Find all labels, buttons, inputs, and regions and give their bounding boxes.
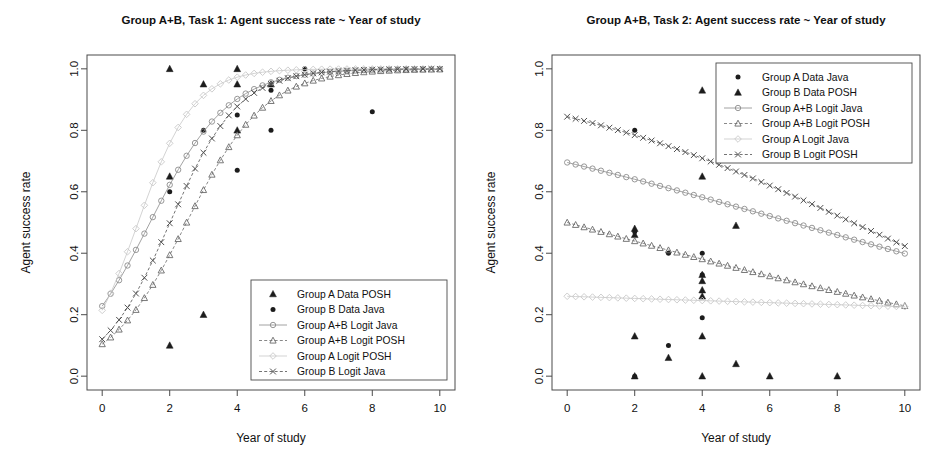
marker-x-cross	[581, 118, 587, 124]
marker-x-cross	[834, 213, 840, 219]
chart-title: Group A+B, Task 2: Agent success rate ~ …	[586, 14, 886, 26]
marker-x-cross	[826, 209, 832, 215]
marker-filled-triangle	[699, 287, 706, 293]
marker-x-cross	[843, 217, 849, 223]
x-tick-label: 10	[433, 402, 446, 414]
y-tick-label: 0.2	[68, 307, 80, 323]
x-axis-label: Year of study	[236, 431, 306, 445]
x-tick-label: 10	[898, 402, 911, 414]
marker-x-cross	[792, 194, 798, 200]
series-logit-posh-group-a-b	[564, 219, 908, 308]
x-tick-label: 8	[834, 402, 840, 414]
y-tick-label: 1.0	[68, 61, 80, 77]
legend-label: Group A+B Logit POSH	[297, 335, 405, 346]
y-axis-label: Agent success rate	[484, 171, 498, 273]
marker-filled-triangle	[733, 222, 740, 228]
marker-x-cross	[606, 125, 612, 131]
chart-panel-task-2: Group A+B, Task 2: Agent success rate ~ …	[465, 0, 929, 468]
chart-panel-task-1: Group A+B, Task 1: Agent success rate ~ …	[0, 0, 464, 468]
series-logit-posh-group-a	[99, 66, 443, 314]
marker-x-cross	[158, 239, 164, 245]
legend-label: Group B Data Java	[297, 304, 385, 315]
chart-title: Group A+B, Task 1: Agent success rate ~ …	[121, 14, 421, 26]
marker-x-cross	[649, 138, 655, 144]
marker-x-cross	[682, 149, 688, 155]
marker-filled-triangle	[699, 293, 706, 299]
figure-root: Group A+B, Task 1: Agent success rate ~ …	[0, 0, 929, 468]
marker-filled-triangle	[733, 360, 740, 366]
marker-filled-circle	[700, 315, 705, 320]
legend-label: Group B Logit Java	[297, 366, 385, 377]
marker-filled-circle	[167, 189, 172, 194]
marker-x-cross	[750, 176, 756, 182]
marker-x-cross	[902, 243, 908, 249]
y-tick-label: 0.0	[533, 368, 545, 384]
series-data-java-group-a	[632, 128, 738, 379]
x-tick-label: 2	[632, 402, 638, 414]
x-tick-label: 0	[99, 402, 105, 414]
x-tick-label: 4	[699, 402, 706, 414]
marker-x-cross	[217, 123, 223, 129]
y-tick-label: 0.6	[68, 184, 80, 200]
x-tick-label: 0	[564, 402, 570, 414]
marker-x-cross	[150, 258, 156, 264]
marker-x-cross	[860, 224, 866, 230]
legend-label: Group A+B Logit Java	[762, 103, 863, 114]
chart-svg: Group A+B, Task 1: Agent success rate ~ …	[0, 0, 464, 468]
marker-filled-circle	[666, 343, 671, 348]
y-tick-label: 0.4	[68, 245, 80, 262]
marker-filled-triangle	[631, 333, 638, 339]
marker-filled-triangle	[699, 373, 706, 379]
x-tick-label: 6	[767, 402, 773, 414]
marker-x-cross	[733, 169, 739, 175]
marker-x-cross	[851, 220, 857, 226]
marker-filled-triangle	[200, 81, 207, 87]
marker-x-cross	[133, 291, 139, 297]
marker-filled-circle	[370, 109, 375, 114]
marker-x-cross	[167, 220, 173, 226]
chart-svg: Group A+B, Task 2: Agent success rate ~ …	[465, 0, 929, 468]
legend-label: Group A+B Logit POSH	[762, 118, 870, 129]
marker-x-cross	[708, 159, 714, 165]
y-tick-label: 1.0	[533, 61, 545, 77]
marker-filled-triangle	[699, 277, 706, 283]
series-line	[102, 69, 440, 311]
marker-x-cross	[116, 317, 122, 323]
legend-label: Group A+B Logit Java	[297, 320, 398, 331]
marker-filled-triangle	[766, 373, 773, 379]
marker-x-cross	[201, 150, 207, 156]
marker-filled-triangle	[200, 311, 207, 317]
marker-filled-circle	[632, 128, 637, 133]
marker-filled-circle	[666, 251, 671, 256]
marker-x-cross	[758, 179, 764, 185]
marker-x-cross	[175, 201, 181, 207]
marker-filled-circle	[235, 112, 240, 117]
y-tick-label: 0.8	[533, 122, 545, 138]
marker-x-cross	[868, 228, 874, 234]
marker-open-triangle	[183, 219, 189, 225]
y-tick-label: 0.2	[533, 307, 545, 323]
marker-filled-circle	[736, 75, 741, 80]
chart-legend: Group A Data JavaGroup B Data POSHGroup …	[716, 63, 912, 163]
marker-x-cross	[657, 140, 663, 146]
y-tick-label: 0.4	[533, 245, 545, 262]
marker-filled-triangle	[631, 225, 638, 231]
marker-x-cross	[234, 104, 240, 110]
marker-x-cross	[632, 132, 638, 138]
x-axis: 0246810	[564, 390, 911, 414]
x-tick-label: 6	[302, 402, 308, 414]
legend-label: Group A Logit Java	[762, 134, 849, 145]
marker-filled-circle	[269, 128, 274, 133]
marker-filled-triangle	[166, 65, 173, 71]
marker-x-cross	[809, 201, 815, 207]
y-tick-label: 0.6	[533, 184, 545, 200]
x-axis-label: Year of study	[701, 431, 771, 445]
marker-x-cross	[885, 236, 891, 242]
marker-x-cross	[893, 239, 899, 245]
marker-x-cross	[184, 183, 190, 189]
chart-legend: Group A Data POSHGroup B Data JavaGroup …	[251, 280, 447, 380]
series-logit-java-group-a	[564, 293, 908, 310]
marker-x-cross	[251, 90, 257, 96]
marker-x-cross	[260, 85, 266, 91]
marker-filled-triangle	[166, 342, 173, 348]
